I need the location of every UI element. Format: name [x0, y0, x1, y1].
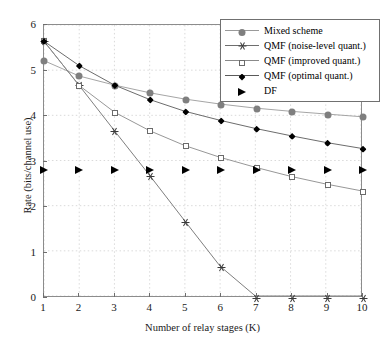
x-tick-mark [149, 293, 150, 297]
x-tick-label: 8 [276, 302, 306, 313]
triangle-icon [224, 84, 260, 98]
star-icon [224, 39, 260, 53]
x-axis-title: Number of relay stages (K) [43, 322, 362, 333]
x-tick-mark [362, 293, 363, 297]
x-tick-mark [185, 293, 186, 297]
legend-label: Mixed scheme [260, 25, 323, 36]
x-tick-label: 9 [312, 302, 342, 313]
x-tick-label: 7 [241, 302, 271, 313]
x-tick-label: 2 [63, 302, 93, 313]
x-tick-label: 6 [205, 302, 235, 313]
square-icon [224, 54, 260, 68]
x-tick-mark [114, 293, 115, 297]
legend-item: QMF (noise-level quant.) [224, 38, 375, 53]
legend-item: QMF (optimal quant.) [224, 68, 375, 83]
diamond-icon [224, 69, 260, 83]
x-tick-mark [78, 293, 79, 297]
x-tick-mark [291, 293, 292, 297]
x-tick-label: 10 [347, 302, 377, 313]
circle-icon [224, 24, 260, 38]
legend-item: DF [224, 83, 375, 98]
legend-label: DF [260, 85, 277, 96]
legend-item: QMF (improved quant.) [224, 53, 375, 68]
legend-label: QMF (noise-level quant.) [260, 40, 366, 51]
x-tick-mark [327, 293, 328, 297]
x-tick-mark [43, 293, 44, 297]
legend-label: QMF (optimal quant.) [260, 70, 353, 81]
y-axis-title: Rate (bits/channel use) [22, 86, 33, 246]
chart-figure: 0123456 12345678910 Number of relay stag… [0, 0, 388, 345]
x-tick-mark [220, 293, 221, 297]
x-tick-mark [256, 293, 257, 297]
chart-legend: Mixed schemeQMF (noise-level quant.)QMF … [220, 19, 380, 102]
x-tick-label: 1 [28, 302, 58, 313]
legend-item: Mixed scheme [224, 23, 375, 38]
x-tick-label: 5 [170, 302, 200, 313]
legend-label: QMF (improved quant.) [260, 55, 360, 66]
x-tick-label: 3 [99, 302, 129, 313]
x-tick-label: 4 [134, 302, 164, 313]
